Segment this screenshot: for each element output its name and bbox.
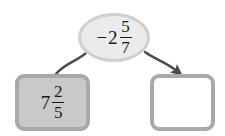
fraction: 5 7 [120, 18, 132, 57]
diagram-canvas: − 2 5 7 7 2 5 [0, 0, 225, 136]
answer-blank-box[interactable] [150, 74, 215, 131]
fraction: 2 5 [52, 83, 64, 122]
negative-sign: − [96, 28, 107, 47]
left-operand-box[interactable]: 7 2 5 [15, 74, 90, 131]
connector-ellipse-to-right-box [145, 52, 178, 72]
numerator: 5 [120, 18, 131, 36]
denominator: 5 [53, 104, 64, 122]
denominator: 7 [120, 39, 131, 57]
whole-part: 7 [41, 93, 51, 112]
connector-ellipse-to-left-box [56, 54, 86, 75]
numerator: 2 [53, 83, 64, 101]
mixed-number-expression: 7 2 5 [41, 83, 65, 122]
mixed-number-expression: − 2 5 7 [96, 18, 131, 57]
source-ellipse-node[interactable]: − 2 5 7 [78, 13, 150, 62]
whole-part: 2 [108, 28, 118, 47]
